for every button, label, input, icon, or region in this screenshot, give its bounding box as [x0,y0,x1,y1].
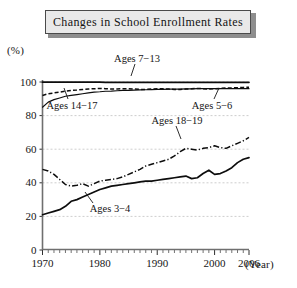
plot-area: 020406080100 19701980199020002006 Ages 7… [0,0,297,288]
x-tick-label: 2006 [238,257,261,269]
y-axis-ticks: 020406080100 [20,76,43,256]
x-axis-ticks: 19701980199020002006 [32,250,261,269]
x-tick-label: 1990 [146,257,169,269]
series-annotations: Ages 7−13 Ages 14−17 Ages 5−6 Ages 18−19… [46,53,232,214]
label-ages-3-4: Ages 3−4 [90,203,131,214]
y-tick-label: 80 [26,109,38,121]
x-tick-label: 1970 [32,257,55,269]
enrollment-chart: Changes in School Enrollment Rates (%) (… [0,0,297,288]
x-tick-label: 2000 [204,257,227,269]
y-tick-label: 0 [31,244,37,256]
y-tick-label: 100 [20,76,37,88]
series-line [43,87,250,95]
label-ages-7-13: Ages 7−13 [114,53,160,64]
y-tick-label: 60 [26,143,38,155]
label-ages-18-19: Ages 18−19 [151,115,202,126]
label-ages-5-6: Ages 5−6 [192,100,233,111]
y-tick-label: 40 [26,176,38,188]
series-line [43,137,250,186]
label-ages-14-17: Ages 14−17 [46,100,97,111]
x-tick-label: 1980 [89,257,112,269]
y-tick-label: 20 [26,210,38,222]
